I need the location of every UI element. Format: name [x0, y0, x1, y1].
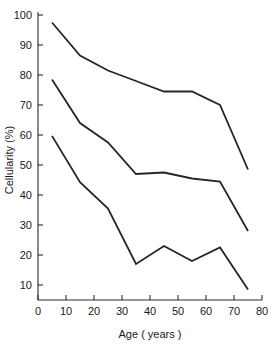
y-axis-ticks [38, 15, 43, 285]
y-axis-tick-labels: 102030405060708090100 [14, 9, 32, 291]
chart-container: 01020304050607080 102030405060708090100 … [0, 0, 277, 345]
y-tick-label: 30 [20, 219, 32, 231]
x-tick-label: 20 [88, 305, 100, 317]
x-tick-label: 70 [228, 305, 240, 317]
y-tick-label: 100 [14, 9, 32, 21]
y-tick-label: 20 [20, 249, 32, 261]
x-tick-label: 10 [60, 305, 72, 317]
x-tick-label: 0 [35, 305, 41, 317]
x-axis-tick-labels: 01020304050607080 [35, 305, 268, 317]
y-tick-label: 90 [20, 39, 32, 51]
axes-group [38, 12, 262, 300]
series-group [52, 23, 248, 290]
series-line-upper-percentile [52, 23, 248, 170]
series-line-median [52, 80, 248, 232]
y-tick-label: 70 [20, 99, 32, 111]
x-tick-label: 60 [200, 305, 212, 317]
x-tick-label: 30 [116, 305, 128, 317]
x-axis-title: Age ( years ) [119, 328, 182, 340]
x-axis-ticks [38, 295, 262, 300]
x-tick-label: 80 [256, 305, 268, 317]
x-tick-label: 50 [172, 305, 184, 317]
y-tick-label: 60 [20, 129, 32, 141]
y-tick-label: 50 [20, 159, 32, 171]
y-axis-title: Cellularity (%) [3, 126, 15, 194]
x-tick-label: 40 [144, 305, 156, 317]
y-tick-label: 10 [20, 279, 32, 291]
y-tick-label: 80 [20, 69, 32, 81]
cellularity-age-line-chart: 01020304050607080 102030405060708090100 … [0, 0, 277, 345]
axis-lines [38, 12, 262, 300]
y-tick-label: 40 [20, 189, 32, 201]
series-line-lower-percentile [52, 136, 248, 290]
